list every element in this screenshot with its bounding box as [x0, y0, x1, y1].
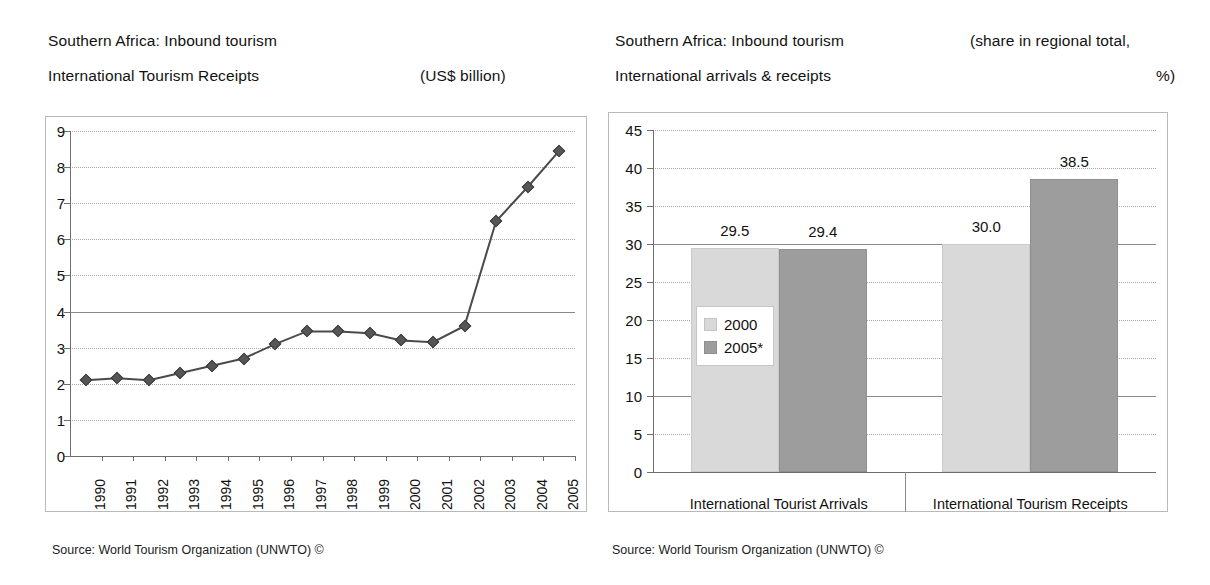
left-chart-panel: Southern Africa: Inbound tourism Interna…	[0, 0, 600, 585]
y-axis-tick-label: 10	[608, 388, 642, 405]
left-chart-title-line1: Southern Africa: Inbound tourism	[48, 32, 277, 50]
right-chart-unit-label-line1: (share in regional total,	[970, 32, 1130, 50]
legend-swatch-icon	[704, 341, 717, 354]
bar-2005	[1030, 179, 1118, 472]
bar-value-label: 30.0	[926, 218, 1046, 235]
legend-label: 2005*	[724, 339, 763, 356]
bar-2000	[942, 244, 1030, 472]
y-axis-tick-label: 0	[608, 464, 642, 481]
left-chart-unit-label: (US$ billion)	[420, 67, 506, 85]
right-chart-panel: Southern Africa: Inbound tourism Interna…	[600, 0, 1210, 585]
y-axis-line	[653, 130, 654, 472]
right-chart-title-line1: Southern Africa: Inbound tourism	[615, 32, 844, 50]
line-series-path	[45, 116, 587, 512]
right-chart-title-line2: International arrivals & receipts	[615, 67, 831, 85]
legend-item-2000[interactable]: 2000	[704, 313, 763, 336]
bar-category-label: International Tourist Arrivals	[653, 496, 905, 512]
y-axis-tick-label: 40	[608, 160, 642, 177]
left-chart-title-line2: International Tourism Receipts	[48, 67, 259, 85]
bar-chart-plot: 05101520253035404529.529.4International …	[608, 112, 1168, 512]
y-axis-tick-label: 15	[608, 350, 642, 367]
y-axis-tick-label: 25	[608, 274, 642, 291]
bar-category-label: International Tourism Receipts	[905, 496, 1157, 512]
y-axis-tick-label: 45	[608, 122, 642, 139]
bar-value-label: 38.5	[1014, 153, 1134, 170]
line-chart-plot: 0123456789199019911992199319941995199619…	[45, 116, 587, 512]
right-chart-unit-label-line2: %)	[1156, 67, 1175, 85]
bar-chart-legend: 20002005*	[696, 306, 774, 366]
legend-label: 2000	[724, 316, 757, 333]
right-chart-source: Source: World Tourism Organization (UNWT…	[612, 543, 884, 557]
legend-swatch-icon	[704, 318, 717, 331]
figure-page: Southern Africa: Inbound tourism Interna…	[0, 0, 1210, 585]
legend-item-2005[interactable]: 2005*	[704, 336, 763, 359]
y-axis-tick-label: 35	[608, 198, 642, 215]
y-axis-tick-label: 20	[608, 312, 642, 329]
y-axis-tick-label: 30	[608, 236, 642, 253]
bar-value-label: 29.4	[763, 223, 883, 240]
bar-gridline	[653, 130, 1156, 131]
left-chart-source: Source: World Tourism Organization (UNWT…	[52, 543, 324, 557]
bar-2005	[779, 249, 867, 472]
y-axis-tick-label: 5	[608, 426, 642, 443]
